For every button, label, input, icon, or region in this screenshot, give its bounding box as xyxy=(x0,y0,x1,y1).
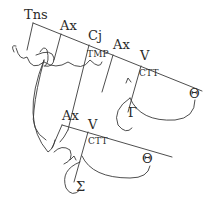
node-v-2: V xyxy=(88,118,97,131)
loop-ax1 xyxy=(36,52,54,66)
arg-gamma: Γ xyxy=(128,106,137,119)
embedded-curl xyxy=(54,147,71,164)
arg-theta-1: Θ xyxy=(189,87,200,100)
arg-sigma: Σ xyxy=(76,180,85,193)
ax3-stem xyxy=(52,125,62,148)
node-tns: Tns xyxy=(24,8,48,21)
tns-curl-icon xyxy=(12,46,16,52)
branch-ctt-1: CTT xyxy=(139,69,159,78)
branch-ctt-2: CTT xyxy=(88,137,108,146)
node-ax-3: Ax xyxy=(62,109,79,122)
main-spine-line xyxy=(33,23,202,91)
tns-arc xyxy=(16,48,44,66)
dependency-diagram: Tns Ax Cj TMP Ax V CTT Θ Γ Ax V CTT Θ Σ xyxy=(0,0,210,203)
ax2-stem xyxy=(102,55,113,92)
tns-stem xyxy=(27,23,33,50)
ctt1-arrow-icon xyxy=(126,78,131,83)
node-ax-1: Ax xyxy=(60,19,77,32)
arg-theta-2: Θ xyxy=(142,152,153,165)
embedded-spine-line xyxy=(62,125,172,157)
cj-to-embedded xyxy=(60,130,68,142)
diagram-lines xyxy=(0,0,210,203)
ax1-curl xyxy=(40,48,48,66)
node-cj: Cj xyxy=(88,29,102,42)
node-ax-2: Ax xyxy=(113,38,130,51)
ax1-stem xyxy=(54,34,61,60)
ctt2-arc xyxy=(82,156,150,178)
node-v-1: V xyxy=(140,49,149,62)
ctt1-arc xyxy=(130,98,195,120)
branch-tmp: TMP xyxy=(87,50,109,59)
v2-stem xyxy=(74,132,88,182)
